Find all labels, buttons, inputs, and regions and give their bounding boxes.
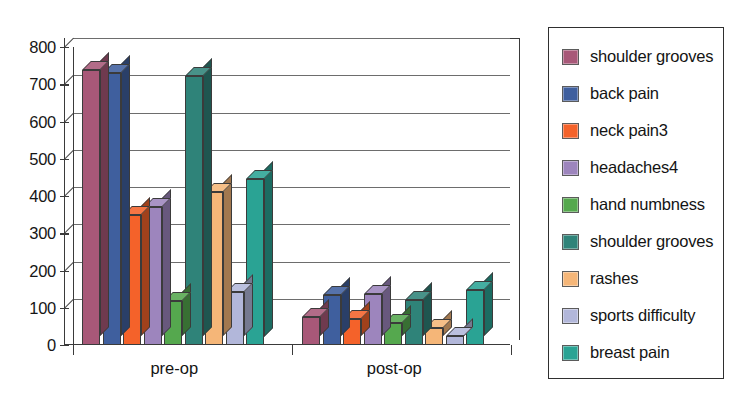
bar-front-face — [302, 317, 320, 345]
bar-side-face — [100, 52, 109, 336]
legend-item-label: neck pain3 — [590, 121, 668, 140]
gridline-700 — [73, 75, 510, 76]
gridline-800 — [73, 38, 510, 39]
y-axis-tick-label: 700 — [10, 75, 56, 94]
legend-item-6[interactable]: rashes — [549, 260, 723, 297]
legend-swatch-icon — [562, 86, 579, 102]
legend-swatch-icon — [562, 123, 579, 139]
y-axis-tick-label: 800 — [10, 38, 56, 57]
legend-swatch-icon — [562, 345, 579, 361]
x-axis-tick-mark — [511, 345, 512, 355]
legend-item-label: shoulder grooves — [590, 47, 713, 66]
legend-item-4[interactable]: hand numbness — [549, 186, 723, 223]
y-axis-tick-label: 600 — [10, 112, 56, 131]
bar-side-face — [203, 58, 212, 336]
legend-item-2[interactable]: neck pain3 — [549, 112, 723, 149]
legend-item-7[interactable]: sports difficulty — [549, 297, 723, 334]
x-axis-category-label-pre-op: pre-op — [150, 359, 198, 378]
legend-swatch-icon — [562, 234, 579, 250]
y-axis-tick-label: 100 — [10, 298, 56, 317]
bar-chart: 0100200300400500600700800 pre-oppost-op … — [0, 0, 730, 408]
y-axis-tick-label: 200 — [10, 261, 56, 280]
bar-side-face — [141, 197, 150, 336]
legend: shoulder groovesback painneck pain3heada… — [548, 27, 724, 379]
bar-post-op-shoulder-grooves — [302, 317, 320, 345]
legend-item-label: headaches4 — [590, 158, 678, 177]
gridline-400 — [73, 187, 510, 188]
bar-side-face — [423, 282, 432, 336]
y-axis-tick-label: 300 — [10, 224, 56, 243]
legend-item-label: shoulder grooves — [590, 232, 713, 251]
bar-front-face — [466, 290, 484, 345]
legend-item-5[interactable]: shoulder grooves — [549, 223, 723, 260]
y-axis-spine-back — [64, 38, 66, 336]
legend-item-label: breast pain — [590, 343, 669, 362]
bar-side-face — [223, 174, 232, 336]
bar-pre-op-shoulder-grooves — [82, 70, 100, 345]
legend-swatch-icon — [562, 308, 579, 324]
legend-item-label: sports difficulty — [590, 306, 695, 325]
bar-post-op-sports-difficulty — [446, 336, 464, 345]
legend-swatch-icon — [562, 271, 579, 287]
gridline-600 — [73, 113, 510, 114]
legend-item-label: rashes — [590, 269, 638, 288]
bar-side-face — [162, 189, 171, 336]
y-axis-tick-mark — [60, 345, 69, 346]
y-axis-tick-label: 500 — [10, 149, 56, 168]
legend-item-8[interactable]: breast pain — [549, 334, 723, 371]
legend-item-1[interactable]: back pain — [549, 75, 723, 112]
bar-side-face — [121, 55, 130, 336]
y-axis-tick-label: 400 — [10, 187, 56, 206]
x-axis-category-label-post-op: post-op — [367, 359, 422, 378]
bar-front-face — [446, 336, 464, 345]
gridline-500 — [73, 150, 510, 151]
legend-swatch-icon — [562, 160, 579, 176]
legend-item-0[interactable]: shoulder grooves — [549, 38, 723, 75]
y-axis-spine — [73, 47, 75, 345]
legend-item-label: hand numbness — [590, 195, 705, 214]
bar-post-op-breast-pain — [466, 290, 484, 345]
bar-front-face — [82, 70, 100, 345]
legend-swatch-icon — [562, 197, 579, 213]
legend-item-label: back pain — [590, 84, 659, 103]
bar-side-face — [264, 161, 273, 337]
plot-area — [64, 38, 520, 350]
x-axis-tick-mark — [292, 345, 293, 355]
y-axis-tick-label: 0 — [10, 336, 56, 355]
legend-swatch-icon — [562, 49, 579, 65]
bar-side-face — [182, 283, 191, 336]
x-axis-tick-mark — [73, 345, 74, 355]
legend-item-3[interactable]: headaches4 — [549, 149, 723, 186]
